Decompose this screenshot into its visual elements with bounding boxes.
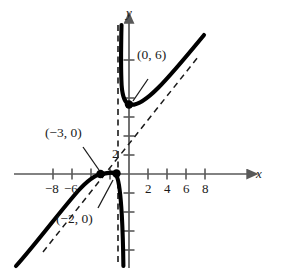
x-tick-label-8: 8 [202, 182, 209, 195]
y-tick-label-2: 2 [112, 147, 119, 160]
x-tick-label-6: 6 [183, 182, 190, 195]
point-label-neg2-0: (−2, 0) [56, 212, 93, 226]
point-marker-neg2-0 [112, 169, 120, 177]
x-axis [14, 169, 248, 180]
leader-line-neg3-0 [83, 147, 99, 170]
point-marker-neg3-0 [96, 170, 104, 178]
x-tick-label-neg8: −8 [45, 182, 59, 195]
coordinate-plot [0, 0, 281, 273]
x-tick-label-4: 4 [164, 182, 171, 195]
graph-figure: y x (0, 6) (−3, 0) (−2, 0) −8 −6 2 4 6 8… [0, 0, 281, 273]
y-axis-label: y [126, 6, 132, 19]
x-axis-label: x [256, 167, 262, 180]
x-tick-label-neg6: −6 [64, 182, 78, 195]
point-label-0-6: (0, 6) [137, 48, 166, 62]
point-marker-0-6 [125, 100, 133, 108]
leader-line-neg2-0 [98, 180, 113, 208]
curve-right-branch [121, 25, 204, 105]
x-tick-label-2: 2 [145, 182, 152, 195]
point-label-neg3-0: (−3, 0) [45, 126, 82, 140]
